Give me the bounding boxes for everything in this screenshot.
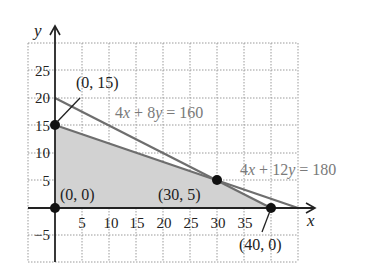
y-tick-labels: 25 20 15 10 5 −5 (34, 63, 50, 243)
svg-text:15: 15 (130, 215, 145, 231)
svg-text:25: 25 (35, 63, 50, 79)
leader-40-0 (262, 211, 270, 232)
svg-text:20: 20 (35, 90, 50, 106)
svg-text:15: 15 (35, 118, 50, 134)
x-tick-labels: 5 10 15 20 25 30 35 (78, 215, 252, 231)
x-axis-label: x (306, 211, 315, 230)
label-point-0-15: (0, 15) (76, 74, 119, 92)
svg-text:5: 5 (43, 173, 51, 189)
label-point-0-0: (0, 0) (60, 186, 95, 204)
vertex-40-0 (266, 203, 276, 213)
linear-programming-graph: y x 5 10 15 20 25 30 35 25 20 15 10 5 −5… (0, 0, 387, 275)
svg-text:−5: −5 (34, 227, 50, 243)
label-point-40-0: (40, 0) (239, 236, 282, 254)
vertex-0-15 (50, 120, 60, 130)
label-point-30-5: (30, 5) (158, 186, 201, 204)
y-axis-label: y (32, 21, 42, 40)
svg-text:35: 35 (238, 215, 253, 231)
svg-text:5: 5 (78, 215, 86, 231)
vertex-0-0 (50, 203, 60, 213)
label-eq-4x-8y-160: 4x + 8y = 160 (115, 104, 203, 122)
svg-text:30: 30 (211, 215, 226, 231)
svg-text:20: 20 (157, 215, 172, 231)
svg-text:25: 25 (184, 215, 199, 231)
svg-text:10: 10 (35, 145, 50, 161)
vertex-30-5 (212, 175, 222, 185)
label-eq-4x-12y-180: 4x + 12y = 180 (240, 161, 336, 179)
svg-text:10: 10 (104, 215, 119, 231)
